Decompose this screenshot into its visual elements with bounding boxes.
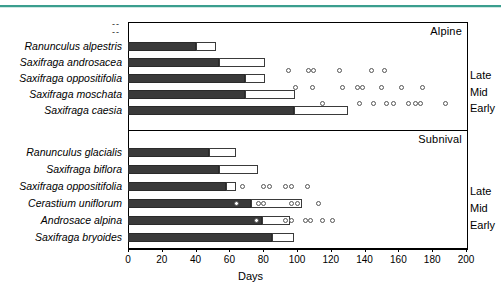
scatter-marker: [283, 218, 288, 223]
x-tick: [297, 248, 298, 252]
species-label: Ranunculus alpestris: [0, 41, 122, 51]
species-label: Saxifraga moschata: [0, 89, 122, 99]
bar-row: [128, 148, 236, 157]
x-tick-label: 180: [417, 254, 447, 265]
species-label: Saxifraga oppositifolia: [0, 73, 122, 83]
scatter-marker: [406, 101, 411, 106]
x-tick: [196, 248, 197, 252]
bar-segment-light: [219, 58, 265, 67]
x-tick: [128, 248, 129, 252]
bar-row: [128, 74, 265, 83]
scatter-marker: [320, 218, 325, 223]
bar-row: [128, 106, 348, 115]
x-tick: [229, 248, 230, 252]
bar-segment-dark: [128, 42, 196, 51]
scatter-marker: [320, 101, 325, 106]
scatter-marker: [330, 218, 335, 223]
bar-segment-dark: [128, 148, 209, 157]
x-tick-label: 140: [350, 254, 380, 265]
group-label-early: Early: [470, 219, 495, 231]
bar-segment-light: [294, 106, 348, 115]
group-label-mid: Mid: [470, 86, 488, 98]
x-tick-label: 60: [214, 254, 244, 265]
scatter-marker: [283, 184, 288, 189]
species-label: Saxifraga caesia: [0, 105, 122, 115]
bar-row: [128, 58, 265, 67]
bar-row: [128, 233, 294, 242]
scatter-marker: [371, 101, 376, 106]
bar-segment-dark: [128, 106, 294, 115]
scatter-marker: [305, 184, 310, 189]
scatter-marker: [379, 85, 384, 90]
x-tick-label: 100: [282, 254, 312, 265]
bar-row: [128, 216, 290, 225]
bar-segment-dark: [128, 58, 219, 67]
scatter-marker: [357, 101, 362, 106]
x-tick: [365, 248, 366, 252]
bar-row: [128, 199, 302, 208]
x-tick: [331, 248, 332, 252]
bar-row: [128, 42, 216, 51]
scatter-marker: [420, 85, 425, 90]
bar-segment-dark: [128, 199, 251, 208]
scatter-marker: [391, 101, 396, 106]
group-label-late: Late: [470, 185, 491, 197]
species-label: Saxifraga bryoides: [0, 232, 122, 242]
bar-segment-light: [245, 90, 296, 99]
scatter-marker: [369, 68, 374, 73]
species-label: Cerastium uniflorum: [0, 198, 122, 208]
bar-segment-dark: [128, 216, 262, 225]
group-label-early: Early: [470, 102, 495, 114]
group-label-late: Late: [470, 69, 491, 81]
scatter-marker: [418, 101, 423, 106]
species-label: Androsace alpina: [0, 215, 122, 225]
x-tick-label: 120: [316, 254, 346, 265]
panel-subnival-title: Subnival: [418, 133, 462, 145]
x-tick: [263, 248, 264, 252]
scatter-marker: [261, 184, 266, 189]
bar-segment-light: [226, 182, 236, 191]
scatter-marker: [256, 201, 261, 206]
bar-row: [128, 165, 258, 174]
scatter-marker: [261, 201, 266, 206]
x-tick-label: 40: [181, 254, 211, 265]
bar-segment-light: [196, 42, 216, 51]
x-tick-label: 80: [248, 254, 278, 265]
bar-segment-light: [209, 148, 236, 157]
x-tick: [466, 248, 467, 252]
x-tick-label: 20: [147, 254, 177, 265]
x-tick: [398, 248, 399, 252]
bar-row: [128, 182, 236, 191]
bar-segment-dark: [128, 182, 226, 191]
bar-segment-dark: [128, 165, 219, 174]
x-tick-label: 200: [451, 254, 481, 265]
bar-segment-light: [245, 74, 265, 83]
bar-segment-light: [272, 233, 294, 242]
scatter-marker: [337, 68, 342, 73]
scatter-marker: [234, 201, 239, 206]
bar-segment-dark: [128, 233, 272, 242]
x-axis-title: Days: [0, 270, 501, 282]
species-label: Ranunculus glacialis: [0, 147, 122, 157]
bar-row: [128, 90, 295, 99]
x-tick: [162, 248, 163, 252]
x-tick-label: 160: [383, 254, 413, 265]
chart-figure: Alpine Subnival Ranunculus alpestrisSaxi…: [0, 8, 501, 290]
scatter-marker: [295, 201, 300, 206]
scatter-marker: [310, 85, 315, 90]
x-tick: [432, 248, 433, 252]
bar-segment-dark: [128, 90, 245, 99]
bar-segment-dark: [128, 74, 245, 83]
panel-alpine-title: Alpine: [430, 25, 462, 37]
dash-mark-lower: --: [112, 30, 120, 35]
scatter-marker: [254, 218, 259, 223]
species-label: Saxifraga biflora: [0, 164, 122, 174]
species-label: Saxifraga androsacea: [0, 57, 122, 67]
scatter-marker: [308, 218, 313, 223]
scatter-marker: [293, 85, 298, 90]
bar-segment-light: [219, 165, 258, 174]
group-label-mid: Mid: [470, 202, 488, 214]
x-tick-label: 0: [113, 254, 143, 265]
species-label: Saxifraga oppositifolia: [0, 181, 122, 191]
